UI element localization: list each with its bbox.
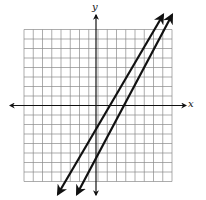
line-1 bbox=[58, 15, 163, 194]
y-axis-label: y bbox=[92, 1, 98, 12]
coordinate-graph bbox=[0, 0, 206, 200]
x-axis-label: x bbox=[188, 98, 194, 109]
line-2 bbox=[77, 15, 172, 194]
